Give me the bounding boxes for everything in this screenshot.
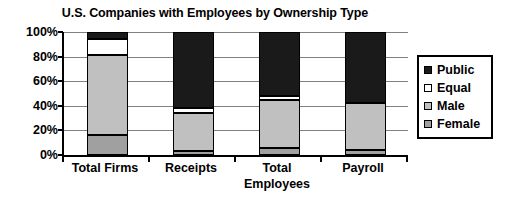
bar-segment-female[interactable]: [345, 150, 386, 155]
x-axis-tick-label-line: Payroll: [342, 161, 384, 175]
x-axis-tick-label-line: Total: [263, 161, 292, 175]
chart-legend: PublicEqualMaleFemale: [417, 55, 493, 139]
x-axis-tick-label-line: Employees: [234, 176, 320, 192]
bar-segment-public[interactable]: [259, 32, 300, 96]
legend-label: Equal: [437, 82, 471, 95]
bar-group[interactable]: [345, 32, 386, 155]
legend-swatch-icon: [424, 84, 432, 92]
bar-segment-public[interactable]: [173, 32, 214, 108]
legend-swatch-icon: [424, 66, 432, 74]
x-axis-tick-label-line: Receipts: [165, 161, 217, 175]
legend-item-male[interactable]: Male: [424, 97, 487, 115]
legend-item-public[interactable]: Public: [424, 61, 487, 79]
bar-segment-equal[interactable]: [87, 39, 128, 55]
bar-group[interactable]: [259, 32, 300, 155]
x-axis-tick-label: TotalEmployees: [234, 160, 320, 192]
stacked-bar[interactable]: [345, 32, 386, 155]
bar-group[interactable]: [173, 32, 214, 155]
legend-item-female[interactable]: Female: [424, 115, 487, 133]
legend-label: Female: [437, 118, 480, 131]
bar-segment-male[interactable]: [345, 103, 386, 150]
legend-item-equal[interactable]: Equal: [424, 79, 487, 97]
bar-group[interactable]: [87, 32, 128, 155]
bar-segment-public[interactable]: [345, 32, 386, 103]
x-axis-tick-label: Receipts: [148, 160, 234, 176]
x-axis-tick-label: Payroll: [320, 160, 406, 176]
x-axis-tick-mark: [406, 157, 408, 162]
plot-area: [62, 32, 408, 157]
legend-swatch-icon: [424, 120, 432, 128]
chart-container: U.S. Companies with Employees by Ownersh…: [0, 0, 505, 200]
x-axis-tick-labels: Total FirmsReceiptsTotalEmployeesPayroll: [62, 160, 406, 198]
legend-label: Male: [437, 100, 465, 113]
bar-segment-equal[interactable]: [173, 108, 214, 113]
bar-segment-female[interactable]: [259, 148, 300, 155]
legend-swatch-icon: [424, 102, 432, 110]
bar-segment-male[interactable]: [87, 55, 128, 135]
x-axis-tick-label: Total Firms: [62, 160, 148, 176]
bar-segment-male[interactable]: [173, 113, 214, 151]
bar-segment-equal[interactable]: [259, 96, 300, 100]
bar-segment-female[interactable]: [87, 135, 128, 155]
x-axis-tick-label-line: Total Firms: [72, 161, 138, 175]
stacked-bar[interactable]: [259, 32, 300, 155]
y-axis-tick-marks: [0, 32, 64, 155]
bar-segment-male[interactable]: [259, 100, 300, 148]
stacked-bar[interactable]: [87, 32, 128, 155]
stacked-bar[interactable]: [173, 32, 214, 155]
chart-title: U.S. Companies with Employees by Ownersh…: [0, 6, 430, 20]
bar-segment-public[interactable]: [87, 32, 128, 39]
bar-segment-female[interactable]: [173, 151, 214, 155]
legend-label: Public: [437, 64, 475, 77]
